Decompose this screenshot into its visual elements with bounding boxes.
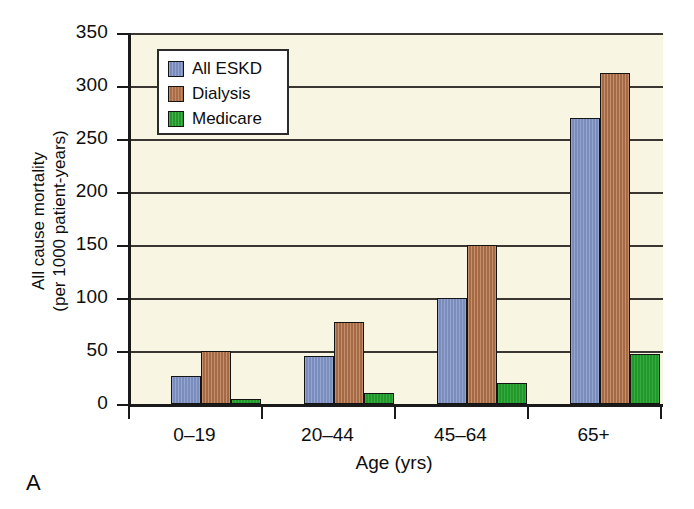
bar-all-eskd-2044 [304, 356, 334, 404]
legend-item-medicare: Medicare [168, 106, 287, 131]
legend: All ESKD Dialysis Medicare [157, 49, 289, 135]
y-axis-title: All cause mortality (per 1000 patient-ye… [28, 76, 70, 366]
bar-medicare-2044 [364, 393, 394, 404]
x-tick-label-2: 45–64 [394, 424, 527, 446]
x-tick-mark-2 [394, 407, 396, 419]
x-tick-label-0: 0–19 [128, 424, 261, 446]
bar-dialysis-4564 [467, 245, 497, 404]
x-tick-mark-3 [527, 407, 529, 419]
figure-panel-a: 050100150200250300350 0–1920–4445–6465+ … [0, 0, 694, 509]
x-tick-label-3: 65+ [527, 424, 660, 446]
gridline-350 [131, 33, 663, 35]
x-tick-label-1: 20–44 [261, 424, 394, 446]
panel-label: A [26, 470, 41, 496]
y-tick-mark-50 [117, 351, 128, 353]
legend-label-dialysis: Dialysis [192, 85, 251, 102]
y-tick-mark-100 [117, 298, 128, 300]
y-tick-mark-350 [117, 33, 128, 35]
legend-label-medicare: Medicare [192, 110, 262, 127]
bar-medicare-019 [231, 399, 261, 404]
bar-medicare-4564 [497, 383, 527, 404]
y-tick-mark-0 [117, 404, 128, 406]
legend-item-all-eskd: All ESKD [168, 56, 287, 81]
bar-all-eskd-019 [171, 376, 201, 404]
x-tick-mark-1 [261, 407, 263, 419]
bar-all-eskd-4564 [437, 298, 467, 404]
legend-swatch-dialysis [168, 86, 184, 102]
legend-swatch-all-eskd [168, 61, 184, 77]
y-tick-mark-150 [117, 245, 128, 247]
y-axis-title-line1: All cause mortality [28, 76, 49, 366]
y-tick-label-0: 0 [38, 392, 108, 414]
x-tick-mark-4 [660, 407, 662, 419]
bar-dialysis-2044 [334, 322, 364, 404]
bar-dialysis-65+ [600, 73, 630, 404]
bar-dialysis-019 [201, 351, 231, 404]
y-axis-title-line2: (per 1000 patient-years) [49, 76, 70, 366]
legend-swatch-medicare [168, 111, 184, 127]
legend-item-dialysis: Dialysis [168, 81, 287, 106]
bar-medicare-65+ [630, 354, 660, 404]
bar-all-eskd-65+ [570, 118, 600, 404]
y-tick-mark-300 [117, 86, 128, 88]
x-axis-title-text: Age (yrs) [355, 452, 432, 473]
legend-label-all-eskd: All ESKD [192, 60, 262, 77]
y-tick-mark-250 [117, 139, 128, 141]
y-tick-mark-200 [117, 192, 128, 194]
y-tick-label-350: 350 [38, 21, 108, 43]
x-axis-title: Age (yrs) [128, 452, 660, 474]
x-tick-mark-0 [128, 407, 130, 419]
